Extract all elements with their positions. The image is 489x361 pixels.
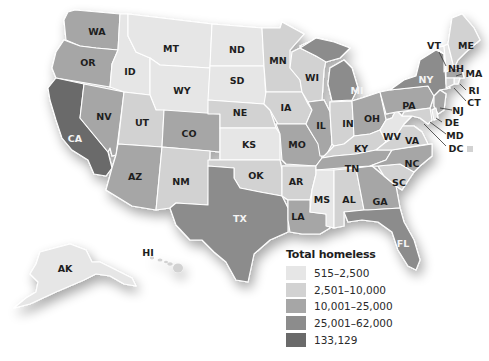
label-IN: IN [342,118,354,129]
state-HI[interactable] [150,257,183,273]
label-NV: NV [96,111,112,122]
label-FL: FL [397,238,410,249]
legend-swatch-4 [286,316,306,330]
label-RI: RI [469,85,480,96]
state-CT[interactable] [446,78,454,88]
label-AK: AK [58,263,73,274]
label-MD: MD [446,130,463,141]
state-DC-swatch[interactable] [467,146,473,152]
label-NH: NH [448,63,464,74]
legend-label-4: 25,001–62,000 [314,317,393,329]
legend-item: 515–2,500 [286,265,456,282]
legend: Total homeless 515–2,500 2,501–10,000 10… [286,248,456,348]
label-IA: IA [281,102,293,113]
label-DE: DE [445,117,459,128]
label-AR: AR [289,176,304,187]
legend-swatch-1 [286,266,306,280]
label-MI: MI [351,85,364,96]
state-RI[interactable] [454,78,460,84]
label-MN: MN [269,55,286,66]
legend-swatch-2 [286,283,306,297]
label-NJ: NJ [452,105,464,116]
legend-swatch-5 [286,333,306,347]
label-OR: OR [80,57,96,68]
label-NM: NM [172,176,189,187]
label-NC: NC [405,158,420,169]
label-SD: SD [230,75,245,86]
label-NY: NY [419,74,434,85]
label-SC: SC [392,177,406,188]
label-LA: LA [291,211,305,222]
label-WY: WY [173,85,190,96]
label-CO: CO [181,128,196,139]
label-AL: AL [342,194,355,205]
label-ND: ND [229,44,245,55]
label-MT: MT [163,43,179,54]
label-ME: ME [458,40,474,51]
label-GA: GA [372,196,388,207]
label-MO: MO [288,139,306,150]
legend-item: 133,129 [286,331,456,348]
label-NE: NE [233,107,247,118]
label-CA: CA [68,133,83,144]
label-WV: WV [383,131,401,142]
label-ID: ID [124,66,136,77]
label-OH: OH [364,113,380,124]
label-WI: WI [305,72,319,83]
label-WA: WA [88,26,106,37]
legend-item: 10,001–25,000 [286,298,456,315]
state-AK[interactable] [14,244,136,308]
label-TN: TN [345,163,359,174]
legend-swatch-3 [286,299,306,313]
label-KY: KY [354,143,368,154]
legend-item: 25,001–62,000 [286,315,456,332]
label-VT: VT [427,40,441,51]
label-TX: TX [233,213,247,224]
legend-label-5: 133,129 [314,334,357,346]
label-CT: CT [467,97,481,108]
label-DC: DC [449,143,464,154]
legend-label-1: 515–2,500 [314,267,369,279]
label-MS: MS [314,194,330,205]
label-OK: OK [248,170,264,181]
label-AZ: AZ [128,171,142,182]
label-UT: UT [135,117,150,128]
label-KS: KS [242,139,256,150]
legend-label-3: 10,001–25,000 [314,300,393,312]
legend-item: 2,501–10,000 [286,282,456,299]
label-VA: VA [405,135,420,146]
label-IL: IL [316,120,326,131]
label-MA: MA [466,68,483,79]
label-HI: HI [142,247,154,258]
legend-label-2: 2,501–10,000 [314,284,386,296]
legend-title: Total homeless [286,248,456,261]
label-PA: PA [402,100,416,111]
